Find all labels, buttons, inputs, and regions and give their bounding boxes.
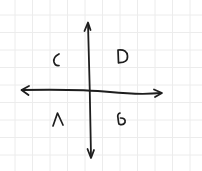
- diagram-svg: [0, 0, 202, 171]
- quadrant-label-b: [118, 113, 125, 125]
- background-grid: [0, 0, 202, 171]
- quadrant-diagram: C D A B: [0, 0, 202, 171]
- horizontal-axis: [22, 86, 163, 97]
- quadrant-label-c: [54, 54, 59, 66]
- quadrant-label-d: [118, 50, 128, 63]
